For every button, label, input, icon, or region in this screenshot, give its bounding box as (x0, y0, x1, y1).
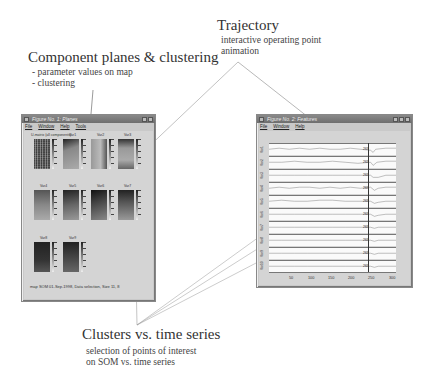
timeseries-canvas[interactable]: Var1 263 Var2 263 Var3 263 Var4 263 Var5 (259, 131, 410, 285)
timeseries-stack: Var1 263 Var2 263 Var3 263 Var4 263 Var5 (259, 143, 410, 273)
x-tick: 200 (348, 276, 354, 280)
menu-file[interactable]: File (25, 124, 32, 129)
timeseries-row[interactable]: Var5 263 (269, 195, 396, 207)
component-plane[interactable] (91, 139, 107, 169)
timeseries-line (269, 222, 396, 233)
window-menu-icon[interactable] (259, 117, 264, 122)
features-window[interactable]: Figure No. 2: Features File Window Help … (256, 114, 413, 288)
maximize-icon[interactable] (148, 117, 153, 122)
timeseries-line (269, 209, 396, 220)
component-plane[interactable] (34, 242, 50, 272)
component-plane[interactable] (63, 190, 79, 220)
plane-label: Var7 (124, 184, 131, 188)
annotation-trajectory: Trajectory interactive operating point a… (217, 18, 321, 57)
timeseries-row[interactable]: Var10 263 (269, 260, 396, 273)
row-label: Var10 (260, 261, 264, 270)
annotation-clusters: Clusters vs. time series selection of po… (82, 327, 220, 368)
component-plane[interactable] (63, 242, 79, 272)
x-tick: 250 (368, 276, 374, 280)
window-titlebar[interactable]: Figure No. 1: Planes (22, 115, 155, 123)
plane-label: Var1 (69, 133, 76, 137)
menu-file[interactable]: File (260, 124, 267, 129)
timeseries-row[interactable]: Var7 263 (269, 221, 396, 233)
minimize-icon[interactable] (393, 117, 398, 122)
component-plane[interactable] (34, 190, 50, 220)
annotation-item: interactive operating point (221, 35, 321, 46)
menu-window[interactable]: Window (38, 124, 54, 129)
x-tick: 100 (308, 276, 314, 280)
plane-label: Var5 (69, 184, 76, 188)
menu-help[interactable]: Help (60, 124, 69, 129)
window-titlebar[interactable]: Figure No. 2: Features (257, 115, 412, 123)
time-cursor[interactable] (368, 143, 369, 272)
plane-label: Var6 (97, 184, 104, 188)
row-label: Var7 (260, 224, 264, 231)
timeseries-line (269, 183, 396, 194)
colorbar-ticks (54, 242, 57, 272)
timeseries-row[interactable]: Var4 263 (269, 182, 396, 194)
u-matrix-plane[interactable] (34, 139, 50, 169)
timeseries-line (269, 144, 396, 155)
timeseries-line (269, 170, 396, 181)
annotation-title: Component planes & clustering (28, 50, 218, 65)
colorbar-ticks (111, 190, 114, 220)
window-title: Figure No. 1: Planes (32, 116, 78, 122)
timeseries-row[interactable]: Var6 263 (269, 208, 396, 220)
annotation-title: Trajectory (217, 18, 321, 33)
component-plane[interactable] (118, 190, 134, 220)
timeseries-line (269, 196, 396, 207)
menu-help[interactable]: Help (295, 124, 304, 129)
menubar: File Window Help Tools (22, 123, 155, 130)
colorbar-ticks (83, 139, 86, 169)
plane-label: Var8 (40, 236, 47, 240)
annotation-item: - clustering (32, 78, 218, 89)
colorbar-ticks (111, 139, 114, 169)
colorbar-ticks (54, 139, 57, 169)
maximize-icon[interactable] (399, 117, 404, 122)
close-icon[interactable] (405, 117, 410, 122)
x-tick: 300 (389, 276, 395, 280)
colorbar-ticks (138, 190, 141, 220)
row-label: Var2 (260, 159, 264, 166)
timeseries-row[interactable]: Var8 263 (269, 234, 396, 246)
colorbar-ticks (54, 190, 57, 220)
component-plane[interactable] (63, 139, 79, 169)
timeseries-row[interactable]: Var2 263 (269, 156, 396, 168)
menu-window[interactable]: Window (273, 124, 289, 129)
menu-tools[interactable]: Tools (76, 124, 87, 129)
plane-label: Var9 (69, 236, 76, 240)
timeseries-row[interactable]: Var9 263 (269, 247, 396, 259)
row-label: Var3 (260, 172, 264, 179)
timeseries-line (269, 235, 396, 246)
planes-window[interactable]: Figure No. 1: Planes File Window Help To… (21, 114, 156, 302)
timeseries-row[interactable]: Var3 263 (269, 169, 396, 181)
component-plane[interactable] (91, 190, 107, 220)
row-label: Var8 (260, 237, 264, 244)
row-label: Var9 (260, 250, 264, 257)
row-label: Var5 (260, 198, 264, 205)
component-plane[interactable] (118, 139, 134, 169)
colorbar-ticks (83, 242, 86, 272)
timeseries-line (269, 261, 396, 272)
row-label: Var6 (260, 211, 264, 218)
colorbar-ticks (138, 139, 141, 169)
menubar: File Window Help (257, 123, 412, 130)
plane-label: Var4 (40, 184, 47, 188)
window-title: Figure No. 2: Features (267, 116, 317, 122)
window-menu-icon[interactable] (24, 117, 29, 122)
timeseries-line (269, 248, 396, 259)
annotation-item: - parameter values on map (32, 67, 218, 78)
status-text: map SOM 01-Sep-1998, Data selection, Siz… (30, 284, 120, 289)
timeseries-row[interactable]: Var1 263 (269, 143, 396, 155)
annotation-component-planes: Component planes & clustering - paramete… (28, 50, 218, 89)
plane-label: Var3 (124, 133, 131, 137)
annotation-item: animation (221, 46, 321, 57)
minimize-icon[interactable] (142, 117, 147, 122)
timeseries-line (269, 157, 396, 168)
annotation-item: selection of points of interest (86, 346, 220, 357)
planes-canvas[interactable]: U-matrix (all components) Var1 Var2 Var3… (24, 131, 153, 299)
plane-label: Var2 (97, 133, 104, 137)
row-label: Var1 (260, 146, 264, 153)
x-tick: 50 (289, 276, 293, 280)
annotation-title: Clusters vs. time series (82, 327, 220, 342)
